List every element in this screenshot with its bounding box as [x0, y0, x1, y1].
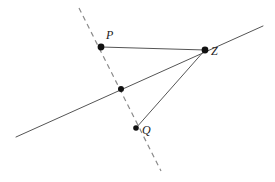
geometry-canvas: [0, 0, 275, 182]
geometry-figure: P Q Z: [0, 0, 275, 182]
segment-p-z-line: [101, 47, 205, 50]
point-label-z: Z: [211, 45, 218, 57]
solid-ray-line: [16, 26, 263, 137]
point-p-dot: [98, 44, 105, 51]
point-label-q: Q: [142, 124, 151, 136]
segment-q-z-line: [136, 50, 205, 128]
point-m-dot: [118, 86, 124, 92]
point-q-dot: [133, 125, 139, 131]
point-z-dot: [202, 47, 209, 54]
point-label-p: P: [106, 29, 113, 41]
